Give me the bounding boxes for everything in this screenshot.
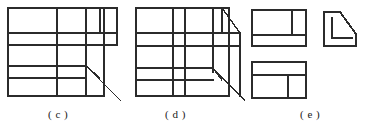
- figure-caption-e: ( e ): [300, 108, 320, 120]
- figure-caption-c: ( c ): [48, 108, 68, 120]
- e3-outer-rect: [252, 62, 306, 98]
- d-outer-rect: [136, 8, 229, 96]
- figure-c: [8, 8, 121, 101]
- e2-profile-outline: [324, 12, 356, 46]
- d-chamfer-top: [222, 8, 240, 33]
- e2-inner-notch: [332, 18, 352, 38]
- c-outer-rect-left: [8, 8, 104, 96]
- e1-outer-rect: [252, 10, 306, 46]
- e-side-view: [324, 12, 356, 46]
- figure-sheet: ( c ) ( d ) ( e ): [0, 0, 367, 132]
- figure-e: [252, 10, 356, 98]
- e-top-view: [252, 10, 306, 46]
- figure-caption-d: ( d ): [165, 108, 186, 120]
- e-front-view: [252, 62, 306, 98]
- figure-d: [136, 8, 245, 101]
